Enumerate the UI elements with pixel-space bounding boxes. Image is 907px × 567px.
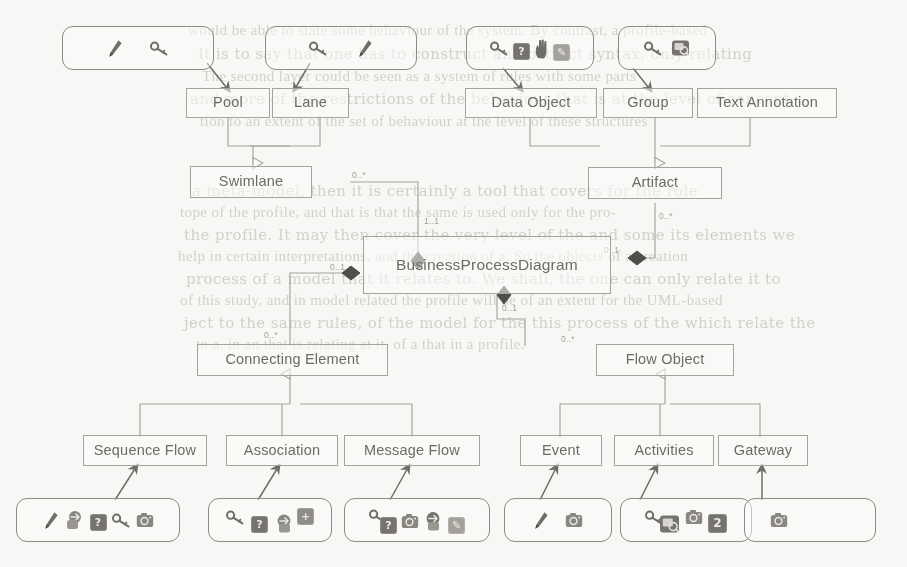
hand-icon[interactable] — [534, 38, 549, 59]
class-box-message-flow[interactable]: Message Flow — [344, 435, 480, 466]
multiplicity-flowobject-target: 0..1 — [502, 303, 517, 313]
camera-icon[interactable] — [685, 509, 703, 525]
link-badge-icon[interactable] — [423, 511, 444, 531]
camera-icon[interactable] — [401, 513, 419, 529]
number-2-icon[interactable]: 2 — [708, 514, 727, 533]
class-box-business-process-diagram[interactable]: BusinessProcessDiagram — [363, 236, 611, 294]
bleed-text-line: ject to the same rules, of the model for… — [184, 314, 815, 332]
palette-lane[interactable] — [265, 26, 417, 70]
multiplicity-artifact-source: 0..* — [659, 211, 673, 221]
palette-group[interactable] — [618, 26, 716, 70]
palette-data-object[interactable]: ? ✎ — [466, 26, 594, 70]
key-icon[interactable] — [309, 41, 328, 56]
question-box-icon[interactable]: ? — [90, 514, 107, 531]
composition-diamond-artifact — [628, 251, 646, 265]
arrow-palette-activities — [640, 464, 658, 500]
class-box-lane[interactable]: Lane — [272, 88, 349, 118]
key-icon[interactable] — [226, 510, 245, 525]
arrow-palette-sequence-flow — [115, 464, 138, 500]
palette-association[interactable]: ? + — [208, 498, 332, 542]
multiplicity-swimlane-source: 0..* — [352, 170, 366, 180]
bleed-text-line: tope of the profile, and that is that th… — [180, 204, 616, 221]
palette-message-flow[interactable]: ? ✎ — [344, 498, 490, 542]
image-tag-icon[interactable] — [659, 514, 680, 534]
class-box-event[interactable]: Event — [520, 435, 602, 466]
class-box-connecting-element[interactable]: Connecting Element — [197, 344, 388, 376]
link-badge-icon[interactable] — [64, 510, 85, 530]
camera-icon[interactable] — [565, 512, 583, 528]
class-box-association[interactable]: Association — [226, 435, 338, 466]
class-box-group[interactable]: Group — [603, 88, 693, 118]
class-box-gateway[interactable]: Gateway — [718, 435, 808, 466]
pen-icon[interactable] — [533, 511, 549, 530]
palette-event[interactable] — [504, 498, 612, 542]
bleed-text-line: The second layer could be seen as a syst… — [202, 68, 637, 85]
bleed-text-line: of this study, and in model related the … — [180, 292, 723, 309]
camera-icon[interactable] — [136, 512, 154, 528]
image-tag-icon[interactable] — [671, 39, 690, 57]
question-box-icon[interactable]: ? — [513, 43, 530, 60]
class-box-pool[interactable]: Pool — [186, 88, 270, 118]
key-icon[interactable] — [644, 41, 663, 56]
multiplicity-connecting-source: 0..* — [264, 330, 278, 340]
pen-icon[interactable] — [357, 39, 373, 58]
key-icon[interactable] — [150, 41, 169, 56]
class-box-swimlane[interactable]: Swimlane — [190, 166, 312, 198]
pen-icon[interactable] — [43, 511, 59, 530]
class-box-data-object[interactable]: Data Object — [465, 88, 597, 118]
palette-gateway[interactable] — [744, 498, 876, 542]
class-box-flow-object[interactable]: Flow Object — [596, 344, 734, 376]
link-badge-icon[interactable] — [274, 513, 295, 533]
palette-sequence-flow[interactable]: ? — [16, 498, 180, 542]
arrow-palette-association — [258, 464, 280, 500]
multiplicity-connecting-target: 0..1 — [330, 262, 345, 272]
plus-box-icon[interactable]: + — [297, 508, 314, 525]
edit-note-icon[interactable]: ✎ — [553, 44, 570, 61]
class-box-artifact[interactable]: Artifact — [588, 167, 722, 199]
multiplicity-swimlane-target: 1..1 — [424, 216, 439, 226]
palette-activities[interactable]: 2 — [620, 498, 752, 542]
class-box-sequence-flow[interactable]: Sequence Flow — [83, 435, 207, 466]
key-icon[interactable] — [112, 513, 131, 528]
key-icon[interactable] — [490, 41, 509, 56]
pen-icon[interactable] — [107, 39, 123, 58]
question-box-icon[interactable]: ? — [251, 516, 268, 533]
class-box-text-annotation[interactable]: Text Annotation — [697, 88, 837, 118]
diagram-canvas: would be able to state some behaviour of… — [0, 0, 907, 567]
class-box-activities[interactable]: Activities — [614, 435, 714, 466]
edit-note-icon[interactable]: ✎ — [448, 517, 465, 534]
arrow-palette-message-flow — [390, 464, 410, 500]
question-box-icon[interactable]: ? — [380, 517, 397, 534]
multiplicity-flowobject-source: 0..* — [561, 334, 575, 344]
palette-pool[interactable] — [62, 26, 214, 70]
arrow-palette-event — [540, 464, 558, 500]
camera-icon[interactable] — [770, 512, 788, 528]
